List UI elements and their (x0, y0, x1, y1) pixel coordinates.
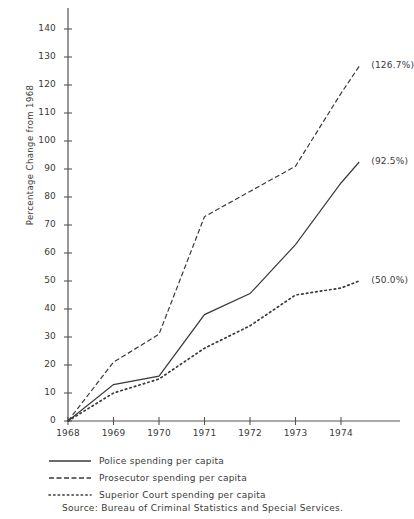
y-tick-label: 20 (30, 359, 56, 369)
y-tick-label: 120 (30, 79, 56, 89)
x-tick-label: 1968 (51, 428, 85, 438)
legend-item-prosecutor: Prosecutor spending per capita (47, 469, 397, 486)
y-tick-label: 90 (30, 163, 56, 173)
series-line (68, 281, 359, 421)
legend-swatch-dotted-icon (47, 490, 99, 500)
chart-legend: Police spending per capita Prosecutor sp… (47, 452, 397, 503)
x-tick-label: 1971 (188, 428, 222, 438)
y-tick-label: 140 (30, 23, 56, 33)
y-tick-label: 0 (30, 415, 56, 425)
legend-label-police: Police spending per capita (99, 456, 224, 466)
x-tick-label: 1972 (233, 428, 267, 438)
series-lines (68, 66, 359, 421)
series-line (68, 66, 359, 421)
endpoint-label: (126.7%) (371, 60, 414, 70)
x-tick-label: 1970 (142, 428, 176, 438)
y-tick-label: 110 (30, 107, 56, 117)
legend-label-prosecutor: Prosecutor spending per capita (99, 473, 247, 483)
endpoint-label: (50.0%) (371, 275, 408, 285)
legend-label-superior-court: Superior Court spending per capita (99, 490, 266, 500)
y-tick-label: 10 (30, 387, 56, 397)
x-tick-label: 1974 (324, 428, 358, 438)
x-tick-label: 1973 (279, 428, 313, 438)
y-tick-label: 30 (30, 331, 56, 341)
legend-swatch-dashed-icon (47, 473, 99, 483)
y-tick-label: 100 (30, 135, 56, 145)
y-tick-label: 60 (30, 247, 56, 257)
y-tick-label: 50 (30, 275, 56, 285)
endpoint-label: (92.5%) (371, 156, 408, 166)
source-note: Source: Bureau of Criminal Statistics an… (62, 503, 343, 513)
y-tick-label: 130 (30, 51, 56, 61)
legend-item-police: Police spending per capita (47, 452, 397, 469)
legend-item-superior-court: Superior Court spending per capita (47, 486, 397, 503)
legend-swatch-solid-icon (47, 456, 99, 466)
y-tick-label: 80 (30, 191, 56, 201)
y-tick-label: 70 (30, 219, 56, 229)
x-tick-label: 1969 (97, 428, 131, 438)
y-tick-label: 40 (30, 303, 56, 313)
